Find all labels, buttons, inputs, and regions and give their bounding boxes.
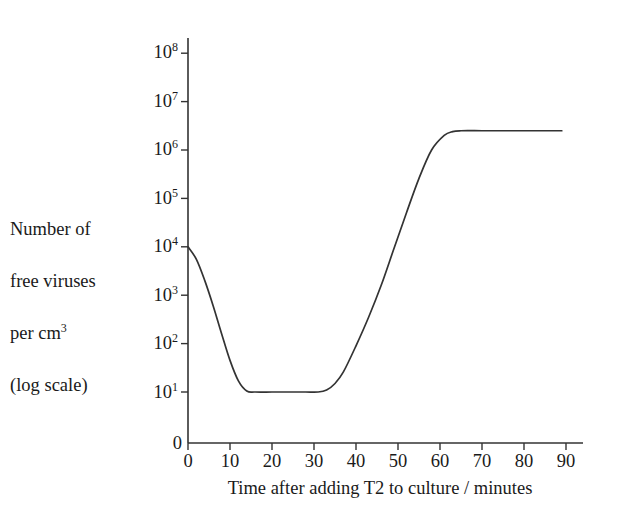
virus-growth-chart: Number of free viruses per cm3 (log scal… [0,0,629,526]
data-series-line [188,131,562,392]
x-axis-ticks [188,443,566,450]
plot-area [0,0,629,526]
y-axis-ticks [181,53,188,392]
